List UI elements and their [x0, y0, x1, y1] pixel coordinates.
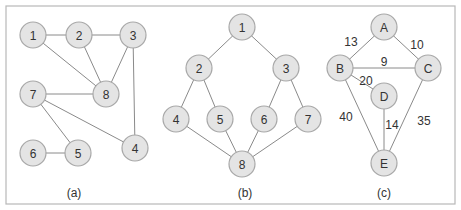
node-label: 7 — [305, 113, 312, 127]
node-b-6: 6 — [251, 106, 277, 132]
edge-weight-B-D: 20 — [359, 74, 373, 88]
node-label: 2 — [76, 29, 83, 43]
graph-figure: 1310920401435 1237865412345678ABCDE (a)(… — [0, 0, 461, 210]
node-label: 7 — [30, 88, 37, 102]
node-label: D — [380, 90, 389, 104]
node-label: 6 — [30, 147, 37, 161]
edge-weight-D-E: 14 — [385, 118, 399, 132]
node-label: 1 — [30, 29, 37, 43]
node-a-2: 2 — [66, 22, 92, 48]
edge-weight-C-E: 35 — [417, 114, 431, 128]
node-label: B — [336, 62, 344, 76]
node-b-1: 1 — [229, 14, 255, 40]
edge-weight-A-B: 13 — [344, 35, 358, 49]
node-c-D: D — [371, 83, 397, 109]
panel-caption-a: (a) — [67, 186, 82, 200]
node-b-8: 8 — [229, 151, 255, 177]
node-c-B: B — [327, 55, 353, 81]
node-label: 8 — [103, 88, 110, 102]
edge-weight-B-C: 9 — [381, 55, 388, 69]
node-a-7: 7 — [20, 81, 46, 107]
node-label: 8 — [239, 158, 246, 172]
edge-weight-A-C: 10 — [410, 38, 424, 52]
node-label: 5 — [75, 147, 82, 161]
panel-caption-b: (b) — [238, 186, 253, 200]
node-c-C: C — [415, 55, 441, 81]
node-b-3: 3 — [273, 55, 299, 81]
node-label: 3 — [130, 29, 137, 43]
node-label: 5 — [217, 113, 224, 127]
node-label: 6 — [261, 113, 268, 127]
node-b-4: 4 — [163, 106, 189, 132]
node-a-5: 5 — [65, 140, 91, 166]
node-label: E — [380, 157, 388, 171]
node-label: 2 — [196, 62, 203, 76]
node-c-E: E — [371, 150, 397, 176]
node-label: A — [380, 21, 388, 35]
node-a-6: 6 — [20, 140, 46, 166]
panel-caption-c: (c) — [377, 186, 391, 200]
node-a-1: 1 — [20, 22, 46, 48]
node-a-3: 3 — [120, 22, 146, 48]
node-a-8: 8 — [93, 81, 119, 107]
node-label: 4 — [132, 142, 139, 156]
node-c-A: A — [371, 14, 397, 40]
node-a-4: 4 — [122, 135, 148, 161]
node-label: 3 — [283, 62, 290, 76]
node-b-5: 5 — [207, 106, 233, 132]
edge-weight-B-E: 40 — [339, 110, 353, 124]
node-label: C — [424, 62, 433, 76]
node-b-2: 2 — [186, 55, 212, 81]
node-b-7: 7 — [295, 106, 321, 132]
node-label: 4 — [173, 113, 180, 127]
node-label: 1 — [239, 21, 246, 35]
